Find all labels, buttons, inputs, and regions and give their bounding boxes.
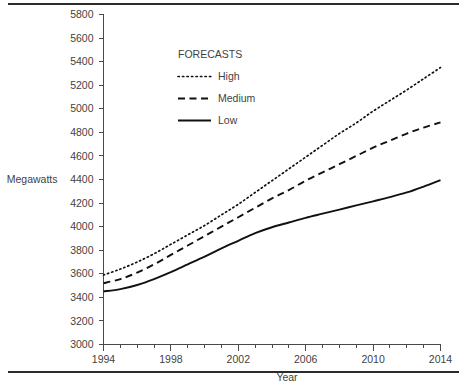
x-axis-title: Year (276, 371, 298, 383)
y-tick-label: 5600 (70, 32, 94, 44)
y-tick-label: 4800 (70, 126, 94, 138)
chart-figure: 3000320034003600380040004200440046004800… (0, 0, 467, 386)
y-axis: 3000320034003600380040004200440046004800… (70, 8, 103, 350)
series-line-high (104, 68, 441, 275)
series-line-low (104, 180, 441, 291)
y-tick-label: 3600 (70, 267, 94, 279)
x-axis: 199419982002200620102014 (92, 345, 453, 365)
y-tick-label: 4200 (70, 197, 94, 209)
y-axis-title: Megawatts (7, 173, 58, 185)
axis-titles: MegawattsYear (7, 173, 298, 382)
y-tick-label: 4600 (70, 150, 94, 162)
legend-label-high[interactable]: High (218, 70, 240, 82)
y-tick-label: 5400 (70, 55, 94, 67)
x-tick-label: 2006 (294, 353, 318, 365)
y-tick-label: 3800 (70, 244, 94, 256)
line-chart-svg: 3000320034003600380040004200440046004800… (0, 0, 467, 386)
y-tick-label: 3200 (70, 315, 94, 327)
y-tick-label: 3400 (70, 291, 94, 303)
series-lines (104, 68, 441, 292)
chart-legend: FORECASTSHighMediumLow (178, 48, 256, 126)
x-tick-label: 1998 (159, 353, 183, 365)
legend-title: FORECASTS (178, 48, 242, 60)
series-line-medium (104, 122, 441, 283)
y-tick-label: 4000 (70, 220, 94, 232)
y-tick-label: 5200 (70, 79, 94, 91)
x-tick-label: 2002 (227, 353, 251, 365)
x-tick-label: 2014 (429, 353, 453, 365)
y-tick-label: 5800 (70, 8, 94, 20)
x-tick-label: 2010 (361, 353, 385, 365)
y-tick-label: 5000 (70, 102, 94, 114)
legend-label-low[interactable]: Low (218, 114, 238, 126)
legend-label-medium[interactable]: Medium (218, 92, 256, 104)
y-tick-label: 4400 (70, 173, 94, 185)
x-tick-label: 1994 (92, 353, 116, 365)
y-tick-label: 3000 (70, 338, 94, 350)
